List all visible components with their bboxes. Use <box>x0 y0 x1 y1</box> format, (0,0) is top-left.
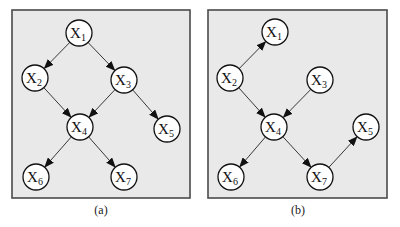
node-x1: X1 <box>66 20 92 46</box>
panel-a: X1X2X3X4X5X6X7(a) <box>12 10 190 217</box>
node-x5: X5 <box>154 116 180 142</box>
panel-caption-a: (a) <box>94 203 107 217</box>
node-x3: X3 <box>307 67 333 93</box>
panel-b: X1X2X3X4X5X6X7(b) <box>208 10 387 217</box>
node-x7: X7 <box>307 164 333 190</box>
node-x5: X5 <box>353 114 379 140</box>
bayesian-network-figure: X1X2X3X4X5X6X7(a)X1X2X3X4X5X6X7(b) <box>0 0 400 227</box>
node-x1: X1 <box>262 19 288 45</box>
node-x4: X4 <box>261 114 287 140</box>
node-x4: X4 <box>67 114 93 140</box>
node-x2: X2 <box>217 65 243 91</box>
node-x7: X7 <box>111 164 137 190</box>
node-x6: X6 <box>23 164 49 190</box>
node-x3: X3 <box>111 67 137 93</box>
panel-caption-b: (b) <box>291 203 305 217</box>
node-x6: X6 <box>218 164 244 190</box>
node-x2: X2 <box>22 65 48 91</box>
